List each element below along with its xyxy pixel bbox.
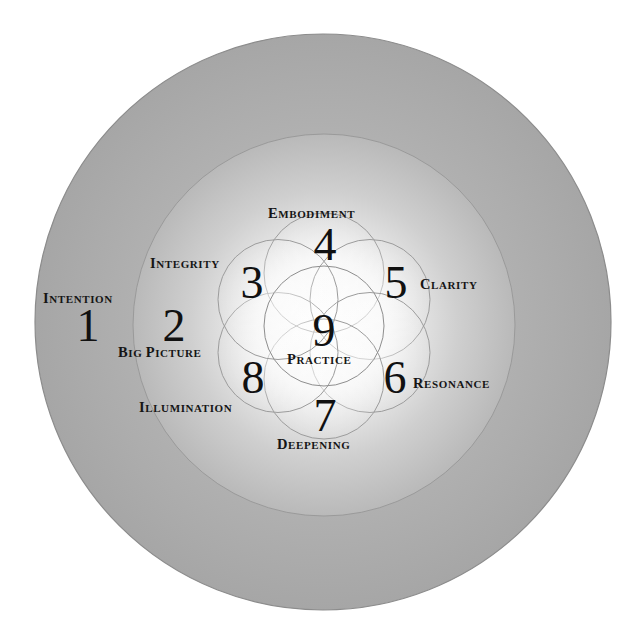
stage-7-label: DEEPENING bbox=[277, 436, 350, 452]
stage-2-number: 2 bbox=[163, 300, 186, 351]
stage-4-number: 4 bbox=[314, 219, 337, 270]
stage-3-number: 3 bbox=[241, 257, 264, 308]
stage-8-label: ILLUMINATION bbox=[139, 399, 232, 415]
stage-9-number: 9 bbox=[313, 305, 336, 356]
stage-8-number: 8 bbox=[242, 352, 265, 403]
stage-2-label: BIG PICTURE bbox=[118, 344, 202, 360]
stage-7-number: 7 bbox=[314, 390, 337, 441]
nine-stage-diagram: INTENTION 1 2 BIG PICTURE INTEGRITY 3 EM… bbox=[0, 0, 643, 638]
stage-5-label: CLARITY bbox=[420, 276, 477, 292]
stage-3-label: INTEGRITY bbox=[150, 255, 220, 271]
stage-5-number: 5 bbox=[385, 257, 408, 308]
stage-4-label: EMBODIMENT bbox=[268, 205, 355, 221]
stage-1-number: 1 bbox=[77, 300, 100, 351]
stage-6-label: RESONANCE bbox=[413, 375, 490, 391]
stage-9-label: PRACTICE bbox=[287, 351, 351, 367]
stage-6-number: 6 bbox=[384, 352, 407, 403]
